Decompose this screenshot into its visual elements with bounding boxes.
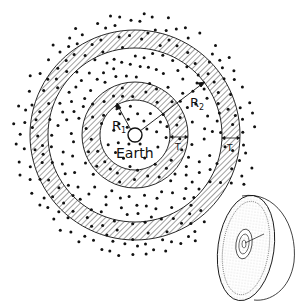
r1-label: R1: [112, 118, 126, 135]
r2-label: R2: [190, 95, 204, 112]
earth-label: Earth: [116, 145, 154, 161]
shell-diagram: R1 R2 Earth T T: [0, 0, 307, 307]
earth-circle: [128, 128, 142, 142]
cutaway-hemisphere: [211, 192, 295, 305]
t-inner-label: T: [174, 142, 181, 152]
t-outer-label: T: [226, 143, 233, 153]
